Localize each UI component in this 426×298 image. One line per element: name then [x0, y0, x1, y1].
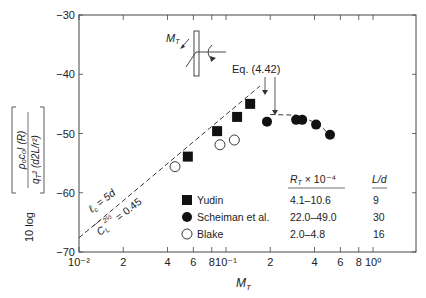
filled-circle-marker	[182, 212, 192, 222]
x-tick-label: 6	[337, 256, 343, 268]
square-marker	[212, 126, 222, 136]
chart-canvas: −30−40−50−60−70 10⁻²246810⁻¹246810⁰ Eq. …	[0, 0, 426, 298]
x-tick-label: 6	[190, 256, 196, 268]
data-points	[170, 99, 335, 172]
legend-ld-value: 9	[373, 194, 379, 206]
square-marker	[232, 112, 242, 122]
x-tick-label: 2	[120, 256, 126, 268]
open-circle-marker	[215, 140, 225, 150]
x-tick-label: 8	[356, 256, 362, 268]
x-tick-label: 8	[209, 256, 215, 268]
filled-circle-marker	[325, 130, 335, 140]
fit-annotations: ℓc = 5d CL2½ = 0.45	[85, 186, 144, 239]
svg-text:L/d: L/d	[372, 173, 388, 185]
x-tick-label: 2	[267, 256, 273, 268]
filled-circle-marker	[262, 117, 272, 127]
svg-text:10 log: 10 log	[23, 212, 35, 242]
square-marker	[245, 99, 255, 109]
y-tick-label: −30	[56, 9, 75, 21]
square-marker	[182, 195, 192, 205]
y-tick-label: −40	[56, 68, 75, 80]
square-marker	[183, 152, 193, 162]
legend-series-name: Yudin	[197, 194, 223, 206]
legend-rt-range: 22.0–49.0	[290, 211, 337, 223]
rotor-diagram-icon: MT	[166, 31, 226, 76]
legend-rt-range: 4.1–10.6	[290, 194, 331, 206]
x-axis-label: MT	[236, 276, 252, 292]
svg-text:MT: MT	[166, 32, 180, 45]
legend-series-name: Blake	[197, 228, 223, 240]
svg-text:RT × 10⁻⁴: RT × 10⁻⁴	[290, 173, 336, 186]
legend-rt-range: 2.0–4.8	[290, 228, 325, 240]
svg-text:qT² (d2L/r²): qT² (d2L/r²)	[30, 135, 42, 184]
legend-series-name: Scheiman et al.	[197, 211, 269, 223]
legend-ld-value: 16	[373, 228, 385, 240]
open-circle-marker	[182, 229, 192, 239]
open-circle-marker	[170, 162, 180, 172]
x-tick-label: 4	[311, 256, 317, 268]
filled-circle-marker	[311, 120, 321, 130]
x-tick-label: 10⁻²	[68, 256, 90, 268]
eq-label: Eq. (4.42)	[232, 63, 280, 75]
legend: RT × 10⁻⁴ L/d Yudin4.1–10.69Scheiman et …	[182, 173, 388, 240]
x-tick-label: 10⁻¹	[215, 256, 237, 268]
y-axis-label: 10 log ρ₀c₀I (R) qT² (d2L/r²)	[12, 107, 44, 242]
filled-circle-marker	[297, 115, 307, 125]
legend-ld-value: 30	[373, 211, 385, 223]
x-axis-ticks: 10⁻²246810⁻¹246810⁰	[68, 15, 382, 268]
y-tick-label: −60	[56, 187, 75, 199]
x-tick-label: 4	[164, 256, 170, 268]
eq-annotation: Eq. (4.42)	[232, 63, 280, 115]
y-tick-label: −50	[56, 128, 75, 140]
svg-text:ρ₀c₀I (R): ρ₀c₀I (R)	[16, 131, 27, 171]
x-tick-label: 10⁰	[365, 256, 382, 268]
open-circle-marker	[229, 135, 239, 145]
